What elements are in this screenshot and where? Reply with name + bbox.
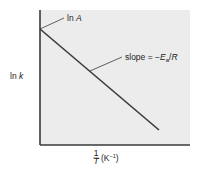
x-axis-label: 1 T (K−1) bbox=[93, 148, 119, 166]
arrhenius-plot: ln A slope = −Ea/R ln k 1 T (K−1) bbox=[0, 0, 200, 173]
intercept-label: ln A bbox=[67, 13, 82, 23]
svg-text:(K−1): (K−1) bbox=[101, 153, 119, 163]
slope-label: slope = −Ea/R bbox=[125, 52, 178, 63]
y-axis-label: ln k bbox=[10, 71, 24, 81]
svg-text:T: T bbox=[93, 156, 99, 166]
plot-area bbox=[40, 10, 190, 145]
